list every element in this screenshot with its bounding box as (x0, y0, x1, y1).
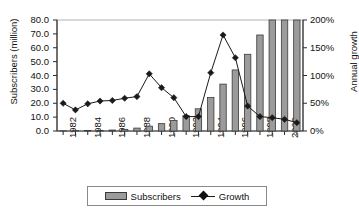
bar (146, 126, 152, 131)
legend-label-subscribers: Subscribers (131, 191, 181, 202)
chart-legend: Subscribers Growth (87, 186, 267, 206)
diamond-marker-icon (60, 100, 66, 106)
bar (208, 98, 214, 131)
legend-item-subscribers[interactable]: Subscribers (105, 191, 181, 202)
bar-swatch-icon (105, 192, 127, 200)
diamond-marker-icon (191, 192, 215, 201)
line-series-growth (60, 32, 300, 126)
diamond-marker-icon (72, 107, 78, 113)
legend-item-growth[interactable]: Growth (191, 191, 250, 202)
bar (171, 120, 177, 131)
bar (109, 130, 115, 131)
diamond-marker-icon (97, 98, 103, 104)
bar-series-subscribers (60, 20, 300, 131)
bar (158, 124, 164, 131)
bar (232, 70, 238, 131)
diamond-marker-icon (232, 55, 238, 61)
bar (134, 128, 140, 131)
bar (244, 54, 250, 131)
diamond-marker-icon (220, 32, 226, 38)
bar (97, 130, 103, 131)
bar (220, 84, 226, 131)
diamond-marker-icon (122, 95, 128, 101)
bar (121, 129, 127, 131)
diamond-marker-icon (208, 70, 214, 76)
legend-label-growth: Growth (219, 191, 250, 202)
diamond-marker-icon (134, 93, 140, 99)
bar (281, 20, 287, 131)
diamond-marker-icon (85, 101, 91, 107)
bar (294, 20, 300, 131)
diamond-marker-icon (109, 97, 115, 103)
